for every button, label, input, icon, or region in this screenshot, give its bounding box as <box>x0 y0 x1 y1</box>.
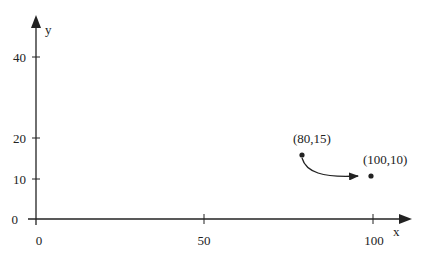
y-tick-label-40: 40 <box>13 50 26 65</box>
y-axis-arrow-icon <box>31 15 41 28</box>
x-axis-arrow-icon <box>399 214 412 224</box>
point-100-10 <box>368 173 373 178</box>
y-axis-label: y <box>45 22 52 37</box>
y-tick-label-0: 0 <box>12 212 19 227</box>
x-tick-label-100: 100 <box>364 233 384 248</box>
x-tick-label-0: 0 <box>36 233 43 248</box>
coordinate-plot: y x 40 20 10 0 0 50 100 (80,15) (100,10) <box>0 0 422 259</box>
y-tick-label-10: 10 <box>13 172 26 187</box>
point-label-100-10: (100,10) <box>363 152 407 167</box>
point-80-15 <box>299 152 304 157</box>
curved-arrow-icon <box>302 158 358 176</box>
y-tick-label-20: 20 <box>13 131 26 146</box>
x-axis-label: x <box>393 224 400 239</box>
x-tick-label-50: 50 <box>198 233 211 248</box>
point-label-80-15: (80,15) <box>293 131 331 146</box>
